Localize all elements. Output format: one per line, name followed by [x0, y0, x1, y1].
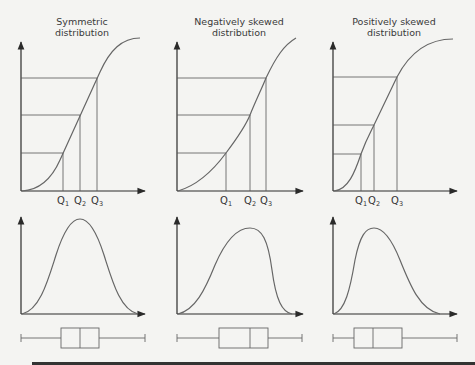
svg-text:Q3: Q3: [391, 195, 403, 208]
quartile-diagram: Symmetric distribution Q1 Q2 Q3: [0, 0, 475, 365]
q3-guide: [177, 78, 266, 191]
panel-positive-skew: Positively skewed distribution Q1 Q2 Q3: [333, 16, 457, 348]
q1-guide: [333, 154, 361, 191]
panel-title-line1: Negatively skewed: [194, 16, 284, 27]
svg-text:Q2: Q2: [368, 195, 380, 208]
q1-guide: [21, 153, 63, 191]
cdf-chart: [21, 38, 145, 191]
density-curve: [22, 219, 138, 314]
q3-guide: [21, 78, 97, 191]
cdf-chart: [333, 39, 457, 191]
svg-text:Q3: Q3: [91, 195, 103, 208]
density-curve: [178, 228, 292, 314]
panel-title-line2: distribution: [55, 27, 109, 38]
q2-guide: [333, 125, 374, 191]
box-plot: [21, 328, 145, 348]
cdf-chart: [177, 38, 303, 191]
cdf-curve: [334, 39, 453, 191]
panel-negative-skew: Negatively skewed distribution Q1 Q2 Q3: [177, 16, 303, 348]
density-chart: [21, 217, 145, 314]
svg-text:Q3: Q3: [260, 195, 272, 208]
density-curve: [334, 228, 440, 314]
svg-text:Q1: Q1: [355, 195, 367, 208]
panel-title-line1: Positively skewed: [352, 16, 436, 27]
box-plot: [333, 328, 457, 348]
svg-text:Q2: Q2: [74, 195, 86, 208]
density-chart: [177, 217, 303, 314]
panel-title-line1: Symmetric: [56, 16, 108, 27]
quartile-labels: Q1 Q2 Q3: [57, 195, 103, 208]
cdf-curve: [178, 38, 296, 191]
box-plot: [177, 328, 302, 348]
panel-title-line2: distribution: [212, 27, 266, 38]
q1-guide: [177, 153, 226, 191]
svg-text:Q1: Q1: [57, 195, 69, 208]
svg-text:Q2: Q2: [244, 195, 256, 208]
quartile-labels: Q1 Q2 Q3: [355, 195, 403, 208]
density-chart: [333, 217, 457, 314]
panel-title-line2: distribution: [367, 27, 421, 38]
panel-symmetric: Symmetric distribution Q1 Q2 Q3: [21, 16, 145, 348]
svg-text:Q1: Q1: [220, 195, 232, 208]
quartile-labels: Q1 Q2 Q3: [220, 195, 272, 208]
q3-guide: [333, 77, 397, 191]
cdf-curve: [22, 38, 140, 191]
